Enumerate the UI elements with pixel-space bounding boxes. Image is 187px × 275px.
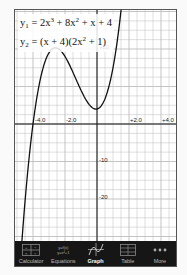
tab-table[interactable]: Table	[112, 241, 144, 266]
equation-list[interactable]: y1 = 2x3 + 8x2 + x + 4 y2 = (x + 4)(2x2 …	[18, 14, 114, 52]
svg-text:+: +	[25, 245, 28, 250]
tab-bar: +−×÷ Calculator y=f(x)y=x²+1 Equations G…	[15, 241, 176, 266]
svg-text:÷: ÷	[34, 250, 37, 255]
graphing-app-frame: -4.0 -2.0 +2.0 +4.0 +20 -10 -20 y1 = 2x3…	[14, 9, 177, 267]
y-tick-label: -10	[99, 157, 108, 163]
x-tick-label: +4.0	[162, 117, 175, 123]
tab-label: Equations	[51, 258, 75, 264]
graph-icon	[85, 243, 107, 256]
more-icon	[149, 243, 171, 256]
tab-graph[interactable]: Graph	[79, 241, 111, 266]
svg-text:−: −	[34, 245, 37, 250]
tab-label: Graph	[87, 258, 103, 264]
tab-label: Table	[121, 258, 134, 264]
equation-y1[interactable]: y1 = 2x3 + 8x2 + x + 4	[20, 14, 112, 33]
x-tick-label: -4.0	[35, 117, 46, 123]
tab-calculator[interactable]: +−×÷ Calculator	[15, 241, 47, 266]
table-icon	[117, 243, 139, 256]
equations-icon: y=f(x)y=x²+1	[52, 243, 74, 256]
tab-label: Calculator	[19, 258, 44, 264]
tab-equations[interactable]: y=f(x)y=x²+1 Equations	[47, 241, 79, 266]
tab-more[interactable]: More	[144, 241, 176, 266]
svg-text:×: ×	[25, 250, 28, 255]
y-tick-label: -20	[99, 194, 108, 200]
calculator-icon: +−×÷	[20, 243, 42, 256]
tab-label: More	[154, 258, 167, 264]
x-tick-label: +2.0	[130, 117, 143, 123]
x-tick-label: -2.0	[66, 117, 77, 123]
equation-y2[interactable]: y2 = (x + 4)(2x2 + 1)	[20, 33, 112, 52]
